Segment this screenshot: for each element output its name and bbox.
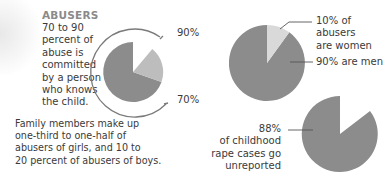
range-label-high: 90% (177, 27, 199, 39)
pie-slice-unreported (302, 96, 378, 172)
ring-tick-high (160, 36, 163, 39)
unreported-pie (288, 96, 378, 172)
known-abuser-pie (91, 29, 168, 117)
gender-pie (229, 22, 313, 101)
pie-slice-men (229, 25, 305, 101)
ring-tick-low (164, 103, 168, 104)
unreported-label-line: rape cases go (200, 148, 281, 160)
women-label-line: are women (316, 40, 391, 52)
women-label-line: 10% of abusers (316, 15, 391, 40)
women-leader-line (280, 22, 289, 29)
range-label-low: 70% (177, 94, 199, 106)
unreported-label-line: 88% (200, 123, 281, 135)
men-label: 90% are men (316, 56, 383, 68)
unreported-label-line: unreported (200, 160, 281, 172)
unreported-label-line: of childhood (200, 135, 281, 147)
women-label: 10% of abusers are women (316, 15, 391, 52)
unreported-label: 88% of childhood rape cases go unreporte… (200, 123, 281, 173)
